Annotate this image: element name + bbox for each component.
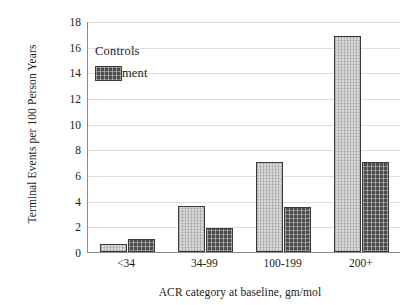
legend-label-controls: Controls [95, 44, 140, 59]
x-axis-tick-labels: <3434-99100-199200+ [87, 257, 400, 277]
x-axis-tick-label: <34 [117, 257, 135, 269]
y-axis-tick-label: 18 [3, 16, 81, 28]
y-axis-tick-label: 4 [3, 196, 81, 208]
bar-chart-figure: Terminal Events per 100 Person Years 024… [0, 0, 417, 305]
y-axis-tick-labels: 024681012141618 [0, 22, 81, 253]
bar-treatment-2 [284, 207, 311, 252]
bar-controls-0 [100, 244, 127, 252]
gridline [88, 22, 400, 23]
x-axis-title: ACR category at baseline, gm/mol [70, 286, 410, 298]
x-axis-tick-label: 34-99 [191, 257, 218, 269]
legend-item-controls: Controls [95, 44, 148, 59]
bar-treatment-3 [362, 162, 389, 252]
y-axis-tick-label: 16 [3, 42, 81, 54]
x-axis-tick-label: 100-199 [263, 257, 301, 269]
bar-treatment-0 [128, 239, 155, 252]
chart-legend: Controls Treatment [95, 44, 148, 81]
legend-item-treatment: Treatment [95, 66, 148, 81]
bar-controls-1 [178, 206, 205, 252]
y-axis-tick-label: 6 [3, 170, 81, 182]
y-axis-tick-label: 14 [3, 67, 81, 79]
y-axis-tick-label: 0 [3, 247, 81, 259]
y-axis-tick-label: 2 [3, 221, 81, 233]
y-axis-tick-label: 10 [3, 119, 81, 131]
legend-swatch-treatment-icon [95, 66, 122, 81]
bar-controls-2 [256, 162, 283, 252]
x-axis-tick-label: 200+ [349, 257, 373, 269]
bar-controls-3 [334, 36, 361, 252]
y-axis-tick-label: 12 [3, 93, 81, 105]
y-axis-tick-label: 8 [3, 144, 81, 156]
bar-treatment-1 [206, 228, 233, 252]
